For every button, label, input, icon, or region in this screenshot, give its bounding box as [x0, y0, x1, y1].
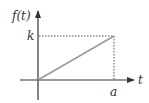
ramp-function-diagram: f(t) k t a	[0, 0, 149, 103]
x-axis-label: t	[138, 73, 143, 87]
k-label: k	[27, 29, 34, 43]
y-axis-label: f(t)	[11, 9, 31, 23]
ramp-line	[38, 36, 114, 80]
a-label: a	[110, 85, 117, 99]
